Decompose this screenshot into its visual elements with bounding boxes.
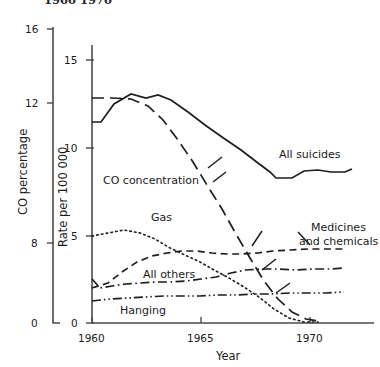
x-axis <box>92 317 374 323</box>
series-label-medicines-line2: and chemicals <box>299 236 378 247</box>
series-label-co-concentration: CO concentration <box>103 175 199 186</box>
x-axis-tick-1960: 1960 <box>78 333 105 344</box>
x-axis-tick-1965: 1965 <box>187 333 214 344</box>
rate-axis-tick-0: 0 <box>71 318 78 329</box>
series-label-hanging: Hanging <box>120 305 166 316</box>
series-label-gas: Gas <box>151 212 172 223</box>
chart-figure: 1960 1970 <box>0 0 380 367</box>
x-axis-title: Year <box>216 351 240 363</box>
x-axis-tick-1970: 1970 <box>296 333 323 344</box>
left-axis-tick-0: 0 <box>31 318 38 329</box>
rate-axis-tick-5: 5 <box>71 231 78 242</box>
series-label-all-suicides: All suicides <box>279 149 340 160</box>
rate-axis-tick-15: 15 <box>64 55 77 66</box>
series-all-suicides <box>92 94 352 178</box>
series-label-medicines-line1: Medicines <box>311 222 366 233</box>
rate-axis <box>86 45 94 323</box>
left-axis-title: CO percentage <box>18 129 30 215</box>
rate-axis-title: Rate per 100 000 <box>58 147 70 247</box>
left-axis-tick-16: 16 <box>25 24 38 35</box>
series-hanging <box>92 292 344 301</box>
series-label-all-others: All others <box>143 269 195 280</box>
left-axis-tick-8: 8 <box>31 238 38 249</box>
left-axis-tick-12: 12 <box>25 98 38 109</box>
series-medicines-and-chemicals <box>92 249 344 288</box>
series-all-others <box>92 268 344 288</box>
